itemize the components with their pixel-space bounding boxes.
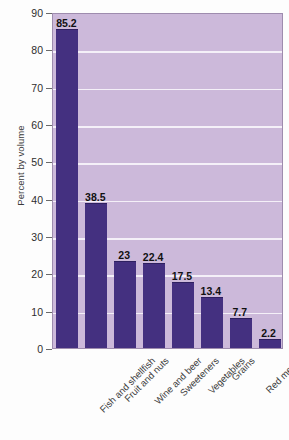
- bar-value-label: 2.2: [261, 327, 276, 339]
- x-axis-category-labels: Fish and shellfishFruit and nutsWine and…: [0, 349, 289, 440]
- bar-value-label: 22.4: [143, 251, 163, 263]
- bar-value-label: 23: [118, 249, 130, 261]
- bar-value-label: 17.5: [172, 270, 192, 282]
- x-axis-label: Red meats: [263, 355, 289, 395]
- bar-value-label: 7.7: [232, 306, 247, 318]
- bar-value-label: 38.5: [85, 191, 105, 203]
- bar-value-label: 13.4: [201, 285, 221, 297]
- bar-chart-figure: Percent by volume 0102030405060708090 85…: [0, 0, 289, 440]
- bar-value-label: 85.2: [56, 17, 76, 29]
